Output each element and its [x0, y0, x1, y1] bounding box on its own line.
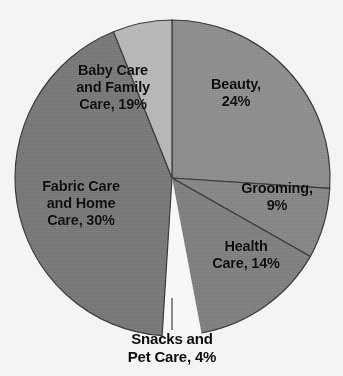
pie-label-beauty: Beauty, 24% [188, 76, 284, 110]
pie-label-baby-care-and-family-care: Baby Care and Family Care, 19% [48, 62, 178, 113]
pie-label-snacks-and-pet-care: Snacks and Pet Care, 4% [97, 330, 247, 366]
pie-label-health-care: Health Care, 14% [185, 238, 307, 272]
pie-chart: Beauty, 24% Grooming, 9% Health Care, 14… [0, 0, 343, 376]
pie-label-fabric-care-and-home-care: Fabric Care and Home Care, 30% [14, 178, 148, 229]
pie-label-grooming: Grooming, 9% [222, 180, 332, 214]
